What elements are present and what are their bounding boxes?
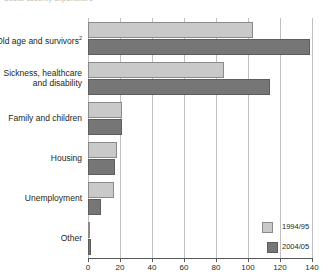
bar-0 — [88, 142, 117, 158]
bar-0 — [88, 22, 253, 38]
axis-tick — [216, 258, 217, 262]
legend-swatch-1994-95 — [262, 222, 273, 233]
bar-chart: Social security expenditure 020406080100… — [0, 0, 330, 278]
axis-tick-label: 80 — [201, 263, 231, 272]
axis-tick-label: 120 — [265, 263, 295, 272]
x-axis-line — [88, 258, 312, 259]
bar-1 — [88, 159, 115, 175]
legend-swatch-2004-05 — [267, 242, 278, 253]
axis-tick-label: 20 — [105, 263, 135, 272]
category-label: Family and children — [0, 113, 82, 123]
bar-0 — [88, 102, 122, 118]
bar-0 — [88, 222, 90, 238]
axis-tick-label: 140 — [297, 263, 327, 272]
axis-tick-label: 40 — [137, 263, 167, 272]
axis-tick-label: 0 — [73, 263, 103, 272]
axis-tick-label: 60 — [169, 263, 199, 272]
bar-0 — [88, 182, 114, 198]
axis-tick — [152, 258, 153, 262]
gridline — [312, 18, 313, 258]
legend-label-1994-95: 1994/95 — [282, 222, 309, 231]
bar-1 — [88, 199, 101, 215]
axis-tick — [280, 258, 281, 262]
axis-tick-label: 100 — [233, 263, 263, 272]
axis-tick — [312, 258, 313, 262]
axis-tick — [248, 258, 249, 262]
clipped-chart-title: Social security expenditure — [4, 0, 93, 2]
bar-1 — [88, 239, 91, 255]
category-label: Old age and survivors2 — [0, 33, 82, 46]
category-label: Sickness, healthcareand disability — [0, 68, 82, 88]
legend-label-2004-05: 2004/05 — [282, 242, 309, 251]
category-label: Other — [0, 233, 82, 243]
bar-0 — [88, 62, 224, 78]
category-label: Unemployment — [0, 193, 82, 203]
axis-tick — [184, 258, 185, 262]
bar-1 — [88, 119, 122, 135]
axis-tick — [88, 258, 89, 262]
category-label: Housing — [0, 153, 82, 163]
plot-area — [88, 18, 312, 258]
bar-1 — [88, 39, 310, 55]
axis-tick — [120, 258, 121, 262]
bar-1 — [88, 79, 270, 95]
